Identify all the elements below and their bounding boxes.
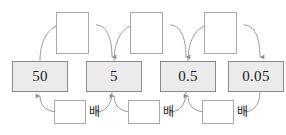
value-box-0-5: 0.5 [160, 61, 216, 92]
top-blank-box-3[interactable] [204, 12, 237, 54]
top-arc-2b [170, 25, 186, 57]
top-blank-box-2[interactable] [130, 12, 163, 54]
value-box-50: 50 [12, 61, 68, 92]
value-box-5: 5 [86, 61, 142, 92]
multiplier-label-2: 배 [163, 106, 174, 118]
top-arc-3b [244, 25, 260, 57]
multiplier-label-3: 배 [237, 106, 248, 118]
bottom-blank-box-3[interactable] [202, 100, 234, 124]
diagram-canvas: 50 5 0.5 0.05 배 배 배 [0, 0, 286, 135]
bottom-blank-box-2[interactable] [128, 100, 160, 124]
top-arc-1b [96, 25, 112, 57]
bottom-blank-box-1[interactable] [54, 100, 86, 124]
multiplier-label-1: 배 [89, 106, 100, 118]
top-blank-box-1[interactable] [56, 12, 89, 54]
value-box-0-05: 0.05 [228, 61, 284, 92]
